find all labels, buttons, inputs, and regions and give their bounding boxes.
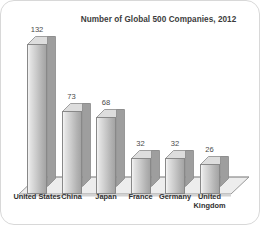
bar-side-face xyxy=(116,109,125,194)
bar-value-label: 26 xyxy=(190,145,230,154)
bar-6: 26 xyxy=(200,164,220,194)
bar-side-face xyxy=(185,150,194,194)
bar-value-label: 132 xyxy=(17,25,57,34)
bar-1: 132 xyxy=(27,44,47,194)
bar-side-face xyxy=(47,36,56,194)
bar-side-face xyxy=(151,150,160,194)
bar-side-face xyxy=(220,156,229,194)
bar-front-face xyxy=(27,44,47,194)
bar-front-face xyxy=(96,117,116,194)
bar-front-face xyxy=(131,158,151,194)
bar-side-face xyxy=(82,103,91,194)
chart-card: Number of Global 500 Companies, 2012 132… xyxy=(0,0,260,225)
bar-3: 68 xyxy=(96,117,116,194)
bar-front-face xyxy=(165,158,185,194)
bar-2: 73 xyxy=(62,111,82,194)
category-label-6: United Kingdom xyxy=(186,193,234,210)
bar-5: 32 xyxy=(165,158,185,194)
bar-4: 32 xyxy=(131,158,151,194)
bar-value-label: 68 xyxy=(86,98,126,107)
chart-plot-area: 1327368323226 United StatesChinaJapanFra… xyxy=(1,1,260,225)
bar-front-face xyxy=(62,111,82,194)
bar-front-face xyxy=(200,164,220,194)
